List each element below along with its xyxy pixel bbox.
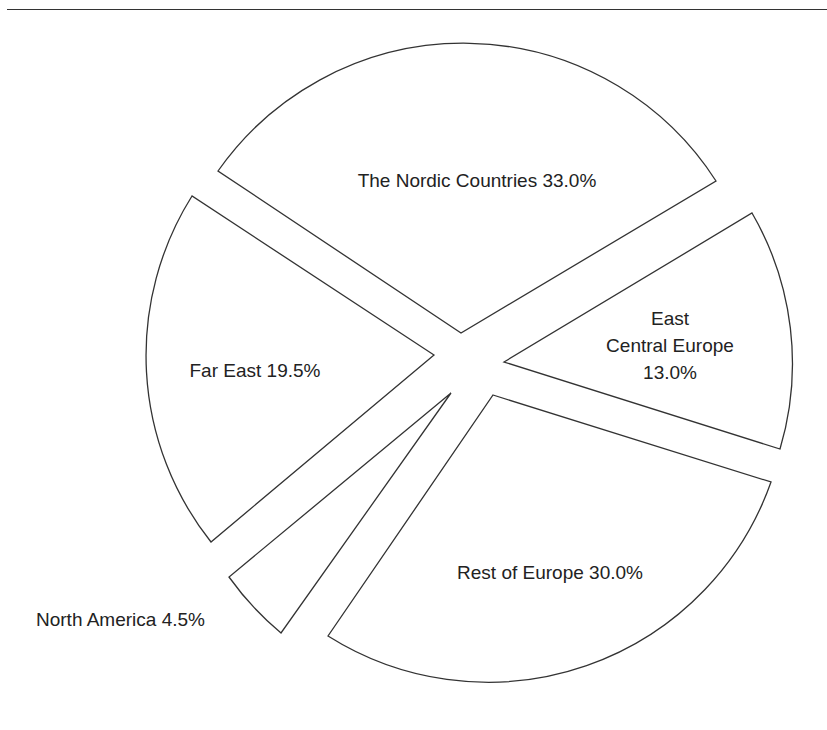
label-nordic-countries: The Nordic Countries 33.0% [358, 170, 597, 191]
label-east-central-europe-line1: East [651, 308, 690, 329]
label-east-central-europe-line3: 13.0% [643, 362, 697, 383]
label-north-america: North America 4.5% [36, 609, 205, 630]
slice-rest-of-europe [328, 395, 771, 682]
label-far-east: Far East 19.5% [190, 360, 321, 381]
pie-chart: The Nordic Countries 33.0% East Central … [0, 0, 827, 730]
label-east-central-europe-line2: Central Europe [606, 335, 734, 356]
label-rest-of-europe: Rest of Europe 30.0% [457, 562, 643, 583]
